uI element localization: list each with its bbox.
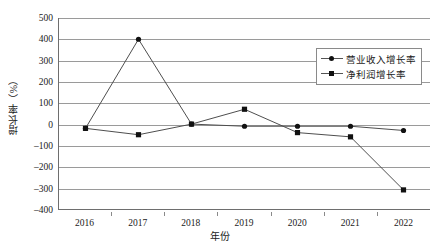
x-tick-label: 2019 bbox=[235, 218, 254, 228]
data-point[interactable] bbox=[295, 124, 300, 129]
y-tick-label: –200 bbox=[34, 162, 53, 172]
data-point[interactable] bbox=[401, 187, 406, 192]
legend-item-net-profit-growth[interactable]: 净利润增长率 bbox=[321, 66, 416, 81]
y-tick-label: 400 bbox=[39, 34, 53, 44]
legend: 营业收入增长率 净利润增长率 bbox=[316, 48, 422, 85]
x-tick-label: 2017 bbox=[128, 218, 147, 228]
legend-item-revenue-growth[interactable]: 营业收入增长率 bbox=[321, 51, 416, 66]
x-tick-mark bbox=[111, 212, 112, 216]
x-axis-title-label: 年份 bbox=[210, 231, 230, 242]
y-tick-label: 200 bbox=[39, 77, 53, 87]
x-tick-mark bbox=[164, 212, 165, 216]
x-tick-label: 2021 bbox=[341, 218, 360, 228]
y-axis-title: 增长率（%） bbox=[0, 0, 26, 210]
plot-area: 营业收入增长率 净利润增长率 bbox=[58, 18, 430, 210]
data-point[interactable] bbox=[189, 122, 194, 127]
y-tick-label: 500 bbox=[39, 13, 53, 23]
x-tick-mark bbox=[324, 212, 325, 216]
x-tick-label: 2018 bbox=[181, 218, 200, 228]
data-point[interactable] bbox=[136, 132, 141, 137]
y-tick-label: 0 bbox=[48, 120, 53, 130]
y-tick-label: –300 bbox=[34, 184, 53, 194]
data-point[interactable] bbox=[295, 130, 300, 135]
data-point[interactable] bbox=[348, 124, 353, 129]
line-chart: 增长率（%） 5004003002001000–100–200–300–400 … bbox=[0, 0, 440, 248]
legend-marker-square-icon bbox=[321, 69, 343, 79]
y-tick-label: 300 bbox=[39, 56, 53, 66]
legend-label-revenue-growth: 营业收入增长率 bbox=[346, 52, 416, 66]
data-point[interactable] bbox=[348, 134, 353, 139]
x-tick-mark bbox=[217, 212, 218, 216]
data-point[interactable] bbox=[242, 124, 247, 129]
data-point[interactable] bbox=[83, 126, 88, 131]
legend-label-net-profit-growth: 净利润增长率 bbox=[346, 67, 406, 81]
x-tick-label: 2022 bbox=[394, 218, 413, 228]
x-tick-mark bbox=[271, 212, 272, 216]
data-point[interactable] bbox=[242, 107, 247, 112]
x-tick-label: 2020 bbox=[288, 218, 307, 228]
series-layer bbox=[59, 18, 430, 209]
data-point[interactable] bbox=[401, 128, 406, 133]
y-tick-label: 100 bbox=[39, 98, 53, 108]
legend-marker-circle-icon bbox=[321, 54, 343, 64]
y-tick-label: –100 bbox=[34, 141, 53, 151]
data-point[interactable] bbox=[136, 37, 141, 42]
series-line-2 bbox=[85, 109, 403, 190]
x-tick-label: 2016 bbox=[75, 218, 94, 228]
y-tick-label: –400 bbox=[34, 205, 53, 215]
x-tick-mark bbox=[377, 212, 378, 216]
y-axis-title-label: 增长率（%） bbox=[6, 74, 21, 135]
x-axis-title: 年份 bbox=[0, 228, 440, 243]
y-axis-tick-labels: 5004003002001000–100–200–300–400 bbox=[26, 0, 56, 248]
